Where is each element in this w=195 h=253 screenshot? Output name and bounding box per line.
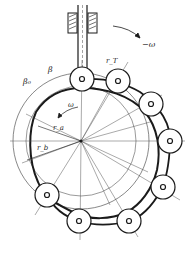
rb-label: r_b [37,144,49,152]
rt-label: r_T [106,57,119,65]
beta-label: β [47,65,53,74]
roller-3 [158,129,182,153]
roller-7 [35,183,59,207]
roller-5 [117,209,141,233]
roller-0 [70,67,94,91]
rotation-arrow-icon [113,26,140,38]
roller-2 [139,92,163,116]
roller-4 [151,175,175,199]
roller-1 [106,69,130,93]
cam-diagram: −ω ω β β₀ r_T r_a r_b [0,0,195,253]
omega-inner-label: ω [68,101,74,109]
omega-top-label: −ω [142,40,156,49]
roller-6 [67,209,91,233]
ra-label: r_a [53,124,64,132]
beta0-label: β₀ [22,77,32,86]
